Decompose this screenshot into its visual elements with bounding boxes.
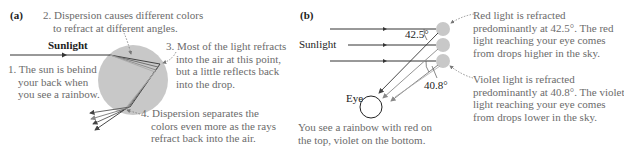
note-2: 2. Dispersion causes different colors to… [43,9,203,34]
angle-arc-violet [426,61,429,72]
violet-note: Violet light is refracted predominantly … [473,73,624,123]
drop-red [436,22,450,36]
pointer-red [451,14,474,23]
drop-violet [436,54,450,68]
angle-violet-label: 40.8° [424,79,448,92]
eye-label: Eye [346,92,363,105]
panel-b-label: (b) [300,9,313,21]
note-1: 1. The sun is behind your back when you … [8,63,100,101]
red-note: Red light is refracted predominantly at … [473,9,613,59]
sunlight-label-b: Sunlight [299,38,336,51]
note-4: 4. Dispersion separates the colors even … [141,107,276,145]
pointer-violet [450,66,473,78]
panel-a-label: (a) [10,9,23,21]
sunlight-label-a: Sunlight [48,39,88,51]
drop-middle [436,38,450,52]
eye [360,96,382,118]
exit-rays [90,107,130,130]
note-3: 3. Most of the light refracts into the a… [166,40,286,90]
caption-b: You see a rainbow with red on the top, v… [298,121,432,146]
angle-red-label: 42.5° [405,28,429,41]
